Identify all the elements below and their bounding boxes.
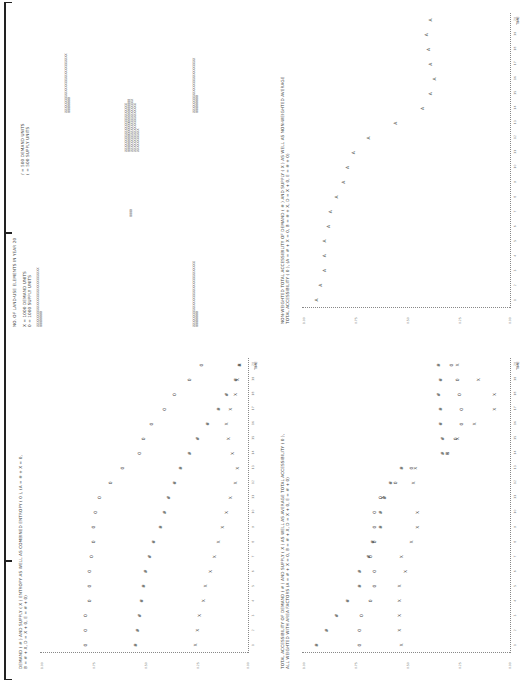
data-point: # xyxy=(217,407,222,411)
x-tick: 16 xyxy=(513,421,517,425)
x-tick: 14 xyxy=(251,451,255,455)
data-point: # xyxy=(136,628,141,632)
data-point: # xyxy=(400,466,405,470)
data-point: X xyxy=(221,526,226,529)
y-tick-3: 0.50 xyxy=(406,662,410,669)
x-tick: 20 xyxy=(513,362,517,366)
data-point: X xyxy=(493,393,498,396)
data-point: A xyxy=(425,33,430,36)
data-point: A xyxy=(327,225,332,228)
x-tick: 10 xyxy=(513,510,517,514)
data-point: X xyxy=(398,629,403,632)
x-tick: 17 xyxy=(513,406,517,410)
x-tick: 3 xyxy=(513,270,517,272)
x-tick: 19 xyxy=(251,377,255,381)
data-point: # xyxy=(133,643,138,647)
region-bar-1-supply: 00000000 xyxy=(40,311,43,327)
data-point: 0 xyxy=(373,526,378,529)
data-point: X xyxy=(194,643,199,646)
x-tick: 12 xyxy=(513,480,517,484)
data-point: 0 xyxy=(358,644,363,647)
y-tick-2: 0.75 xyxy=(354,662,358,669)
x-axis xyxy=(510,358,511,653)
data-point: # xyxy=(437,393,442,397)
data-point: 0 xyxy=(88,585,93,588)
x-tick: 9 xyxy=(513,181,517,183)
data-point: A xyxy=(329,210,334,213)
x-tick: 15 xyxy=(251,436,255,440)
data-point: X xyxy=(400,555,405,558)
data-point: X xyxy=(477,378,482,381)
region-bar-3: 0000 xyxy=(130,209,133,217)
x-tick: 4 xyxy=(513,255,517,257)
data-point: A xyxy=(429,63,434,66)
x-tick: 11 xyxy=(513,150,517,154)
data-point: # xyxy=(358,569,363,573)
x-tick: 9 xyxy=(513,526,517,528)
land-use-legend-supply-half: ( = 500 SUPPLY UNITS xyxy=(25,127,30,175)
x-tick: 19 xyxy=(513,32,517,36)
x-tick: 16 xyxy=(513,76,517,80)
data-point: 0 xyxy=(88,599,93,602)
weighted-accessibility-chart: TOTAL ACCESSIBILITY OF DEMAND ( # ) AND … xyxy=(262,340,525,682)
data-point: 0 xyxy=(142,437,147,440)
x-tick: 6 xyxy=(251,570,255,572)
data-point: X xyxy=(493,408,498,411)
data-point: # xyxy=(206,422,211,426)
data-point: X xyxy=(398,614,403,617)
x-tick: 8 xyxy=(251,541,255,543)
data-point: # xyxy=(163,510,168,514)
data-point: # xyxy=(138,614,143,618)
data-point: # xyxy=(144,569,149,573)
x-tick: 15 xyxy=(513,91,517,95)
data-point: # xyxy=(346,599,351,603)
weighted-title-line2: ALL WEIGHTED WITH AREA FACTORS (A = # + … xyxy=(285,477,290,669)
region-bar-4-supply-d: XXXXXXXXXXX xyxy=(137,129,140,152)
data-point: 0 xyxy=(84,629,89,632)
data-point: A xyxy=(335,195,340,198)
data-point: # xyxy=(140,599,145,603)
x-tick: 8 xyxy=(513,196,517,198)
data-point: 0 xyxy=(368,599,373,602)
data-point: # xyxy=(148,555,153,559)
data-point: 0 xyxy=(163,408,168,411)
x-tick: 14 xyxy=(513,106,517,110)
data-point: 0 xyxy=(460,423,465,426)
data-point: X xyxy=(198,614,203,617)
data-point: A xyxy=(323,240,328,243)
data-point: X xyxy=(202,599,207,602)
data-point: X xyxy=(237,363,242,366)
x-tick: 12 xyxy=(251,480,255,484)
x-tick: 8 xyxy=(513,541,517,543)
x-tick: 16 xyxy=(251,421,255,425)
x-tick: 17 xyxy=(251,406,255,410)
data-point: X xyxy=(400,643,405,646)
data-point: X xyxy=(196,629,201,632)
data-point: # xyxy=(179,466,184,470)
data-point: X xyxy=(227,437,232,440)
x-tick: 18 xyxy=(513,392,517,396)
data-point: # xyxy=(379,525,384,529)
y-tick-1: 1.00 xyxy=(302,662,306,669)
data-point: X xyxy=(204,585,209,588)
x-tick: 20 xyxy=(251,362,255,366)
y-tick-2: 0.75 xyxy=(92,662,96,669)
data-point: 0 xyxy=(373,585,378,588)
y-axis xyxy=(302,652,510,653)
y-tick-3: 0.50 xyxy=(406,317,410,324)
x-tick: 2 xyxy=(513,629,517,631)
data-point: 0 xyxy=(200,364,205,367)
data-point: A xyxy=(323,254,328,257)
data-point: X xyxy=(456,363,461,366)
x-tick: 19 xyxy=(513,377,517,381)
data-point: X xyxy=(414,467,419,470)
y-tick-5: 0.00 xyxy=(508,662,512,669)
y-tick-3: 0.50 xyxy=(144,662,148,669)
data-point: A xyxy=(366,136,371,139)
data-point: X xyxy=(229,408,234,411)
x-tick: 18 xyxy=(251,392,255,396)
data-point: 0 xyxy=(360,614,365,617)
y-tick-4: 0.25 xyxy=(458,317,462,324)
x-tick: 15 xyxy=(513,436,517,440)
x-axis xyxy=(510,13,511,308)
